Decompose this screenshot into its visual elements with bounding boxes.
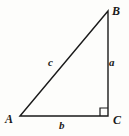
right-angle-marker-icon [100,108,108,116]
side-label-a: a [109,57,115,68]
side-label-b: b [59,120,65,131]
triangle-outline [20,11,108,116]
vertex-label-c: C [113,114,121,126]
vertex-label-b: B [112,5,120,17]
triangle-drawing [0,0,129,136]
side-label-c: c [48,57,53,68]
vertex-label-a: A [5,113,13,125]
right-triangle-figure: A B C a b c [0,0,129,136]
